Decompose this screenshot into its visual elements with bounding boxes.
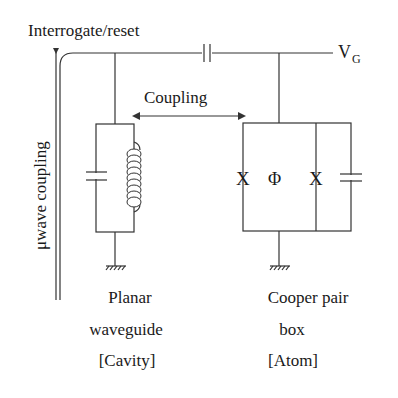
atom-caption-3: [Atom]: [268, 351, 318, 370]
inductor-loops: [127, 149, 141, 207]
junction-left: X: [236, 168, 250, 189]
phi-label: Φ: [268, 169, 281, 189]
atom-box: [243, 123, 351, 231]
cavity-caption-2: waveguide: [89, 320, 163, 339]
cavity-caption-3: [Cavity]: [99, 351, 156, 370]
interrogate-arrow-icon: [53, 48, 59, 54]
atom-caption-1: Cooper pair: [268, 288, 349, 307]
coupling-label: Coupling: [144, 88, 208, 107]
vg-subscript: G: [352, 52, 361, 66]
cavity-ground-icon: [106, 266, 126, 270]
junction-right: X: [309, 168, 323, 189]
coupling-arrow-right-icon: [238, 112, 246, 120]
vg-label: V: [338, 42, 351, 62]
atom-caption-2: box: [279, 320, 305, 339]
uwave-coupling-label: μwave coupling: [31, 141, 50, 250]
atom-ground-icon: [270, 266, 290, 270]
interrogate-label: Interrogate/reset: [28, 21, 140, 40]
circuit-diagram: Interrogate/reset V G Coupling μwave cou…: [0, 0, 398, 398]
coupling-arrow-left-icon: [132, 112, 140, 120]
cavity-caption-1: Planar: [108, 288, 152, 307]
